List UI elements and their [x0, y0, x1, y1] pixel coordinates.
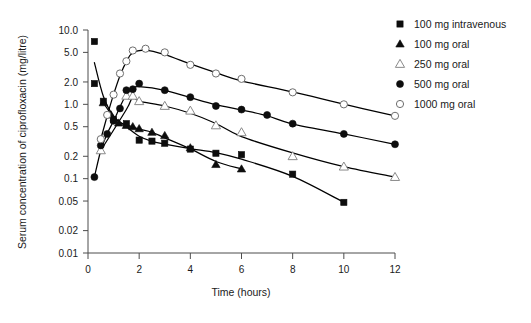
data-point-filled-square [149, 138, 155, 144]
legend-item-label: 500 mg oral [414, 78, 469, 90]
data-point-filled-circle [212, 102, 219, 109]
y-tick-label: 0.2 [64, 151, 78, 162]
data-point-open-circle [97, 136, 104, 143]
data-point-filled-circle [110, 117, 117, 124]
y-tick-label: 0.1 [64, 173, 78, 184]
x-tick-label: 10 [338, 264, 350, 275]
pharmacokinetic-chart-figure: 10.05.02.01.00.50.20.10.050.020.01 02468… [0, 0, 531, 323]
data-point-filled-square [162, 140, 168, 146]
data-point-filled-circle [136, 80, 143, 87]
data-point-open-circle [104, 111, 111, 118]
data-point-filled-square [91, 81, 97, 87]
data-point-filled-circle [340, 130, 347, 137]
data-point-filled-circle [264, 111, 271, 118]
y-tick-label: 0.5 [64, 121, 78, 132]
data-point-open-circle [116, 70, 123, 77]
legend-item-label: 100 mg intravenous [414, 18, 506, 30]
data-point-filled-circle [392, 141, 399, 148]
data-point-filled-circle [187, 94, 194, 101]
data-point-open-circle [212, 70, 219, 77]
plot-canvas: 10.05.02.01.00.50.20.10.050.020.01 02468… [0, 0, 531, 323]
legend-item: 100 mg intravenous [397, 18, 506, 30]
x-tick-label: 4 [188, 264, 194, 275]
data-point-open-circle [110, 91, 117, 98]
data-point-filled-square [91, 38, 97, 44]
x-tick-label: 2 [136, 264, 142, 275]
data-point-filled-square [397, 21, 403, 27]
y-tick-label: 0.02 [59, 225, 79, 236]
data-point-filled-circle [161, 87, 168, 94]
data-point-filled-square [341, 199, 347, 205]
data-point-filled-circle [116, 105, 123, 112]
data-point-filled-circle [104, 130, 111, 137]
y-tick-label: 0.05 [59, 196, 79, 207]
y-axis-title: Serum concentration of ciprofloxacin (mg… [16, 35, 28, 249]
legend-item-label: 100 mg oral [414, 38, 469, 50]
legend-item-label: 250 mg oral [414, 58, 469, 70]
data-point-filled-square [136, 137, 142, 143]
data-point-filled-circle [91, 174, 98, 181]
legend-item-label: 1000 mg oral [414, 98, 475, 110]
data-point-filled-circle [129, 86, 136, 93]
x-axis-title: Time (hours) [211, 286, 270, 298]
data-point-filled-square [213, 150, 219, 156]
x-tick-label: 8 [290, 264, 296, 275]
data-point-open-circle [391, 112, 398, 119]
data-point-filled-circle [123, 87, 130, 94]
data-point-open-circle [396, 100, 403, 107]
y-tick-label: 2.0 [64, 77, 78, 88]
data-point-open-circle [129, 47, 136, 54]
y-tick-label: 10.0 [59, 25, 79, 36]
data-point-open-circle [187, 61, 194, 68]
data-point-open-circle [340, 101, 347, 108]
x-tick-label: 0 [85, 264, 91, 275]
data-point-open-circle [161, 49, 168, 56]
data-point-filled-circle [238, 106, 245, 113]
data-point-filled-square [238, 152, 244, 158]
data-point-open-circle [123, 58, 130, 65]
data-point-filled-circle [289, 120, 296, 127]
y-tick-label: 0.01 [59, 248, 79, 259]
y-tick-label: 5.0 [64, 47, 78, 58]
data-point-open-circle [289, 89, 296, 96]
data-point-open-circle [238, 75, 245, 82]
x-tick-label: 6 [239, 264, 245, 275]
data-point-filled-circle [397, 81, 404, 88]
data-point-open-circle [142, 45, 149, 52]
data-point-filled-square [290, 171, 296, 177]
y-tick-label: 1.0 [64, 99, 78, 110]
x-tick-label: 12 [389, 264, 401, 275]
